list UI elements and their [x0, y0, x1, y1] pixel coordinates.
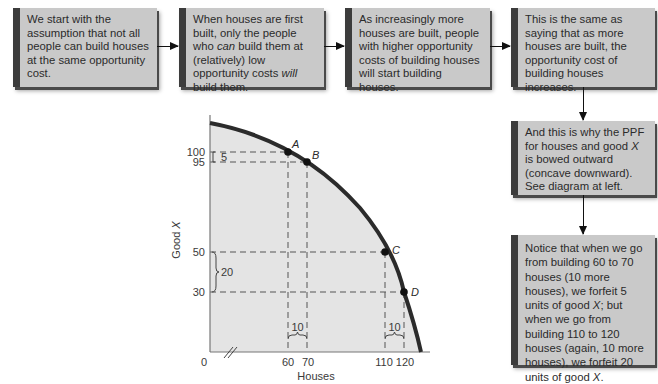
- point-c-label: C: [392, 244, 400, 256]
- point-d-label: D: [411, 286, 419, 298]
- x-tick-70: 70: [302, 356, 314, 368]
- y-tick-95: 95: [193, 156, 205, 168]
- x-tick-120: 120: [396, 356, 414, 368]
- y-tick-50: 50: [193, 246, 205, 258]
- point-b: [303, 158, 311, 166]
- x-tick-0: 0: [201, 356, 207, 368]
- x-tick-110: 110: [375, 356, 393, 368]
- brace-label-10-high: 10: [388, 321, 400, 333]
- y-axis-title: Good X: [170, 221, 182, 259]
- y-tick-30: 30: [193, 286, 205, 298]
- brace-label-10-low: 10: [291, 321, 303, 333]
- point-d: [400, 288, 408, 296]
- point-a-label: A: [291, 138, 299, 150]
- brace-label-20: 20: [221, 266, 233, 278]
- point-c: [381, 248, 389, 256]
- x-axis-title: Houses: [297, 370, 335, 382]
- point-b-label: B: [312, 149, 319, 161]
- brace-label-5: 5: [221, 151, 227, 163]
- point-a: [284, 148, 292, 156]
- x-tick-60: 60: [282, 356, 294, 368]
